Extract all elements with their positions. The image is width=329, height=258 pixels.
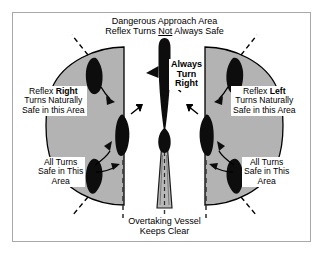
right-upper-dashed-track	[241, 35, 257, 55]
right-sector-caption: Reflex Left Turns Naturally Safe in this…	[231, 86, 298, 116]
left-all-turns-line3: Area	[38, 177, 83, 186]
top-caption-line2-post: Always Safe	[172, 26, 224, 36]
left-all-turns-caption: All Turns Safe in This Area	[36, 157, 85, 187]
top-caption: Dangerous Approach Area Reflex Turns Not…	[103, 17, 226, 36]
left-lower-dashed-track	[72, 197, 88, 216]
top-caption-line2: Reflex Turns Not Always Safe	[105, 27, 224, 37]
overtaking-wake-band	[157, 148, 172, 208]
right-all-turns-caption: All Turns Safe in This Area	[242, 157, 291, 187]
center-vessel-group	[146, 38, 181, 153]
diagram-canvas: Dangerous Approach Area Reflex Turns Not…	[0, 0, 329, 258]
left-upper-dashed-track	[72, 35, 88, 55]
top-caption-line2-emph: Not	[158, 26, 172, 36]
left-sector-caption-line3: Safe in this Area	[22, 106, 85, 115]
always-turn-right-caption: Always Turn Right	[169, 59, 204, 90]
right-sector-caption-line3: Safe in this Area	[233, 106, 296, 115]
left-edge-arrow-head-icon	[136, 104, 143, 112]
right-all-turns-line3: Area	[244, 177, 289, 186]
always-turn-right-line3: Right	[171, 79, 202, 89]
bottom-caption: Overtaking Vessel Keeps Clear	[126, 217, 203, 236]
center-vessel-port-arrow-icon	[146, 66, 159, 78]
bottom-caption-line2: Keeps Clear	[128, 227, 201, 237]
right-lower-dashed-track	[241, 197, 257, 216]
left-sector-caption: Reflex Right Turns Naturally Safe in thi…	[20, 86, 87, 116]
top-caption-line2-pre: Reflex Turns	[105, 26, 158, 36]
right-edge-arrow-head-icon	[186, 104, 193, 112]
center-vessel-bulb	[158, 128, 170, 153]
center-channel-group	[157, 148, 172, 220]
